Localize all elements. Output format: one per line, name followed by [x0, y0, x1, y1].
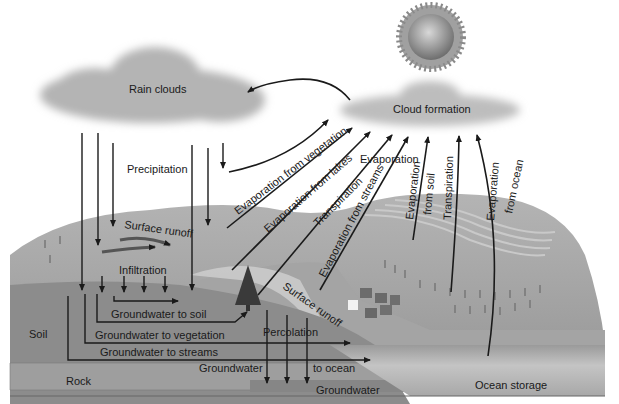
- label-ocean-storage: Ocean storage: [475, 379, 547, 391]
- label-rock: Rock: [66, 375, 92, 387]
- label-groundwater-to-streams: Groundwater to streams: [100, 346, 218, 358]
- label-soil: Soil: [29, 328, 47, 340]
- label-groundwater-to-soil: Groundwater to soil: [111, 308, 206, 320]
- label-precipitation: Precipitation: [127, 163, 188, 175]
- sun-icon: [399, 5, 463, 69]
- label-transpiration-right: Transpiration: [441, 156, 455, 220]
- label-groundwater-to-vegetation: Groundwater to vegetation: [95, 329, 225, 341]
- label-to-ocean: to ocean: [313, 362, 355, 374]
- label-cloud-formation: Cloud formation: [393, 103, 471, 115]
- label-percolation: Percolation: [263, 326, 318, 338]
- label-groundwater: Groundwater: [199, 362, 263, 374]
- water-cycle-diagram: Rain clouds Cloud formation Precipitatio…: [0, 0, 619, 404]
- label-infiltration: Infiltration: [119, 264, 167, 276]
- label-groundwater-bottom: Groundwater: [316, 384, 380, 396]
- label-rain-clouds: Rain clouds: [129, 83, 187, 95]
